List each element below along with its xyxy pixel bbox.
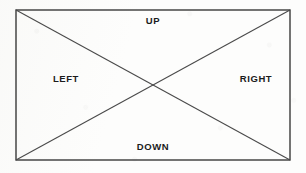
direction-label-down: DOWN bbox=[0, 141, 306, 152]
direction-label-up: UP bbox=[0, 15, 306, 26]
diagram-strokes bbox=[16, 10, 290, 160]
diagram-canvas: UP LEFT RIGHT DOWN bbox=[0, 0, 306, 173]
direction-label-left: LEFT bbox=[16, 73, 116, 84]
direction-label-right: RIGHT bbox=[206, 73, 306, 84]
